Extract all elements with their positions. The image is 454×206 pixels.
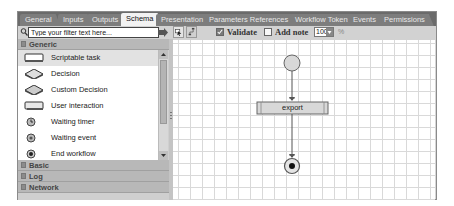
search-icon: [20, 27, 28, 37]
user-interaction-icon: [24, 101, 44, 111]
zoom-dropdown-button[interactable]: [326, 28, 333, 36]
tab-parameters-references[interactable]: Parameters References: [204, 14, 297, 26]
scroll-thumb[interactable]: [160, 60, 167, 124]
palette-item-end-workflow[interactable]: End workflow: [18, 146, 158, 160]
zoom-select[interactable]: 100: [314, 27, 334, 37]
section-generic[interactable]: Generic: [18, 39, 169, 50]
decision-icon: [24, 69, 44, 79]
connector-start-to-export[interactable]: [289, 71, 295, 101]
section-icon: [21, 41, 26, 47]
validate-checkbox[interactable]: [216, 28, 224, 36]
tab-presentation[interactable]: Presentation: [156, 14, 212, 26]
section-icon: [21, 173, 26, 179]
task-node-export-label: export: [257, 102, 328, 114]
palette-item-custom-decision[interactable]: Custom Decision: [18, 82, 158, 98]
tab-permissions[interactable]: Permissions: [379, 14, 434, 26]
scroll-down-button[interactable]: [159, 151, 168, 160]
scroll-up-button[interactable]: [159, 50, 168, 59]
chevron-down-icon: [159, 151, 168, 160]
filter-box: [20, 27, 155, 37]
validate-label: Validate: [227, 26, 257, 38]
palette-item-user-interaction[interactable]: User interaction: [18, 98, 158, 114]
custom-decision-icon: [24, 85, 44, 95]
apply-filter-icon[interactable]: [158, 28, 168, 37]
palette-scrollbar[interactable]: [158, 50, 168, 160]
add-note-label: Add note: [275, 26, 308, 38]
section-icon: [21, 162, 26, 168]
scriptable-task-icon: [24, 53, 44, 63]
filter-input[interactable]: [28, 27, 159, 38]
zoom-unit: %: [338, 26, 344, 38]
select-icon: [174, 27, 183, 37]
palette-list: Scriptable task Decision Custom Decision: [18, 50, 158, 160]
connect-tool-button[interactable]: [186, 26, 197, 38]
check-icon: [217, 29, 223, 35]
tab-general[interactable]: General: [20, 14, 61, 26]
add-note-checkbox[interactable]: [264, 28, 272, 36]
toolbar: Validate Add note 100 %: [18, 26, 436, 40]
end-workflow-icon: [24, 149, 44, 159]
section-network[interactable]: Network: [18, 182, 169, 193]
waiting-event-icon: [24, 133, 44, 143]
connector-export-to-end[interactable]: [289, 114, 295, 158]
palette-item-waiting-timer[interactable]: Waiting timer: [18, 114, 158, 130]
workflow-editor: General Inputs Outputs Schema Presentati…: [17, 11, 437, 200]
tab-bar: General Inputs Outputs Schema Presentati…: [18, 12, 436, 26]
section-basic[interactable]: Basic: [18, 160, 169, 171]
section-icon: [21, 184, 26, 190]
end-node[interactable]: [285, 159, 300, 174]
palette-item-waiting-event[interactable]: Waiting event: [18, 130, 158, 146]
schema-canvas[interactable]: export: [173, 40, 435, 200]
select-tool-button[interactable]: [173, 26, 184, 38]
palette-item-scriptable-task[interactable]: Scriptable task: [18, 50, 158, 66]
chevron-down-icon: [326, 28, 333, 36]
chevron-up-icon: [159, 50, 168, 59]
connector-icon: [187, 27, 196, 37]
start-node[interactable]: [284, 55, 300, 71]
palette-item-decision[interactable]: Decision: [18, 66, 158, 82]
activity-palette: Generic Scriptable task Decision: [18, 39, 169, 200]
waiting-timer-icon: [24, 117, 44, 127]
section-log[interactable]: Log: [18, 171, 169, 182]
